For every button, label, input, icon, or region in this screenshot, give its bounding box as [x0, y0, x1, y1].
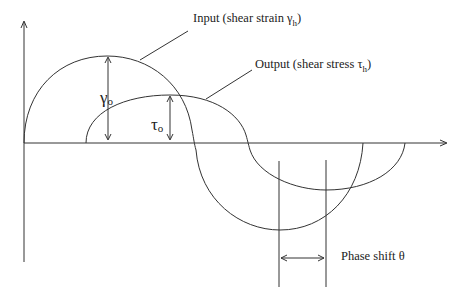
output-label-close: ) [367, 57, 371, 71]
output-label-text: Output (shear stress τ [255, 57, 362, 71]
phase-shift-text: Phase shift θ [341, 249, 405, 263]
gamma-symbol: γ [100, 88, 108, 107]
input-leader-line [140, 31, 188, 60]
gamma-sub: o [108, 95, 114, 107]
tau-amplitude-label: τo [151, 116, 163, 134]
input-label-text: Input (shear strain γ [193, 11, 293, 25]
output-label: Output (shear stress τh) [255, 58, 371, 74]
output-leader-line [206, 70, 252, 99]
gamma-amplitude-label: γo [100, 89, 113, 107]
input-label-close: ) [297, 11, 301, 25]
tau-sub: o [158, 122, 164, 134]
tau-symbol: τ [151, 115, 158, 134]
input-label: Input (shear strain γh) [193, 12, 301, 28]
phase-shift-label: Phase shift θ [341, 250, 405, 263]
